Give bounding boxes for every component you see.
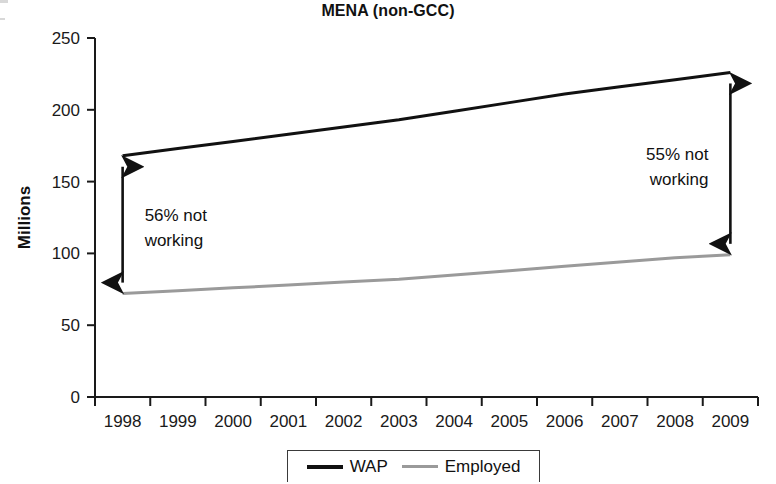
x-tick-label: 1998 bbox=[104, 412, 142, 431]
y-tick-label: 200 bbox=[52, 101, 80, 120]
x-tick-label: 2001 bbox=[269, 412, 307, 431]
y-tick-label: 0 bbox=[71, 388, 80, 407]
x-tick-label: 2002 bbox=[325, 412, 363, 431]
y-tick-label: 150 bbox=[52, 173, 80, 192]
x-tick-label: 2000 bbox=[214, 412, 252, 431]
y-axis-title: Millions bbox=[15, 186, 34, 249]
series-line-employed bbox=[123, 255, 731, 294]
annotation-label-left-gap-line2: working bbox=[144, 231, 204, 250]
data-series-group bbox=[123, 72, 731, 293]
chart-legend: WAP Employed bbox=[287, 450, 540, 482]
x-tick-label: 2005 bbox=[490, 412, 528, 431]
chart-annotations-group: 56% notworking55% notworking bbox=[123, 83, 731, 282]
x-tick-label: 1999 bbox=[159, 412, 197, 431]
x-tick-label: 2004 bbox=[435, 412, 473, 431]
x-tick-label: 2008 bbox=[656, 412, 694, 431]
legend-line-swatch-employed bbox=[402, 465, 438, 468]
legend-label-wap: WAP bbox=[350, 457, 388, 477]
series-line-wap bbox=[123, 72, 731, 155]
y-tick-label: 100 bbox=[52, 244, 80, 263]
y-axis-ticks: 050100150200250 bbox=[52, 29, 95, 407]
y-tick-label: 50 bbox=[61, 316, 80, 335]
annotation-label-left-gap-line1: 56% not bbox=[145, 206, 208, 225]
annotation-label-right-gap-line1: 55% not bbox=[646, 145, 709, 164]
x-tick-label: 2007 bbox=[601, 412, 639, 431]
x-tick-label: 2006 bbox=[546, 412, 584, 431]
chart-figure: MENA (non-GCC) Millions 050100150200250 … bbox=[0, 0, 776, 484]
y-tick-label: 250 bbox=[52, 29, 80, 48]
legend-item-wap: WAP bbox=[307, 457, 388, 477]
scan-artifact-left bbox=[0, 18, 5, 20]
legend-item-employed: Employed bbox=[402, 457, 521, 477]
x-tick-label: 2003 bbox=[380, 412, 418, 431]
line-chart-plot: Millions 050100150200250 199819992000200… bbox=[0, 0, 776, 484]
annotation-label-right-gap-line2: working bbox=[649, 170, 709, 189]
x-tick-label: 2009 bbox=[711, 412, 749, 431]
legend-line-swatch-wap bbox=[307, 465, 343, 469]
x-axis-ticks: 1998199920002001200220032004200520062007… bbox=[95, 397, 758, 431]
scan-artifact-top-left bbox=[0, 0, 8, 3]
legend-label-employed: Employed bbox=[445, 457, 521, 477]
